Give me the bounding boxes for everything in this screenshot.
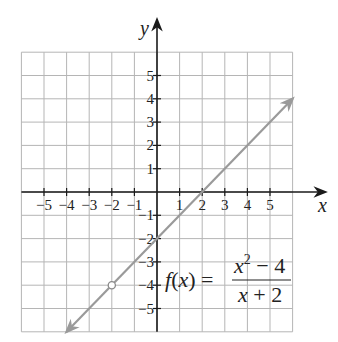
x-tick-label: −2 [104,197,120,213]
formula-numerator-exponent: 2 [244,252,251,267]
x-tick-label: −3 [81,197,97,213]
y-tick-label: 4 [147,91,155,107]
y-tick-label: −4 [138,277,154,293]
y-tick-label: 5 [147,68,155,84]
formula-numerator-rest: − 4 [251,253,285,278]
x-tick-label: −4 [59,197,75,213]
function-formula: f(x) = x2 − 4 x + 2 [165,252,291,307]
x-tick-label: 5 [266,197,274,213]
x-tick-label: 2 [198,197,206,213]
x-tick-label: −5 [36,197,52,213]
svg-text:f(x) =: f(x) = [165,267,213,292]
y-axis-label: y [138,17,149,40]
x-axis-label: x [317,194,327,216]
y-tick-label: −1 [138,207,154,223]
x-tick-label: 1 [176,197,184,213]
svg-text:x2 − 4: x2 − 4 [233,252,285,278]
y-tick-label: 3 [147,114,155,130]
y-tick-label: 1 [147,161,155,177]
formula-denominator: x + 2 [237,282,282,307]
y-tick-label: 2 [147,137,155,153]
hole-marker [108,282,115,289]
y-tick-label: −5 [138,301,154,317]
formula-numerator-base: x [233,253,244,278]
x-tick-label: 3 [221,197,229,213]
x-tick-label: 4 [244,197,252,213]
function-graph: −5−4−3−2−11234554321−1−2−3−4−5 x y f(x) … [0,0,338,342]
